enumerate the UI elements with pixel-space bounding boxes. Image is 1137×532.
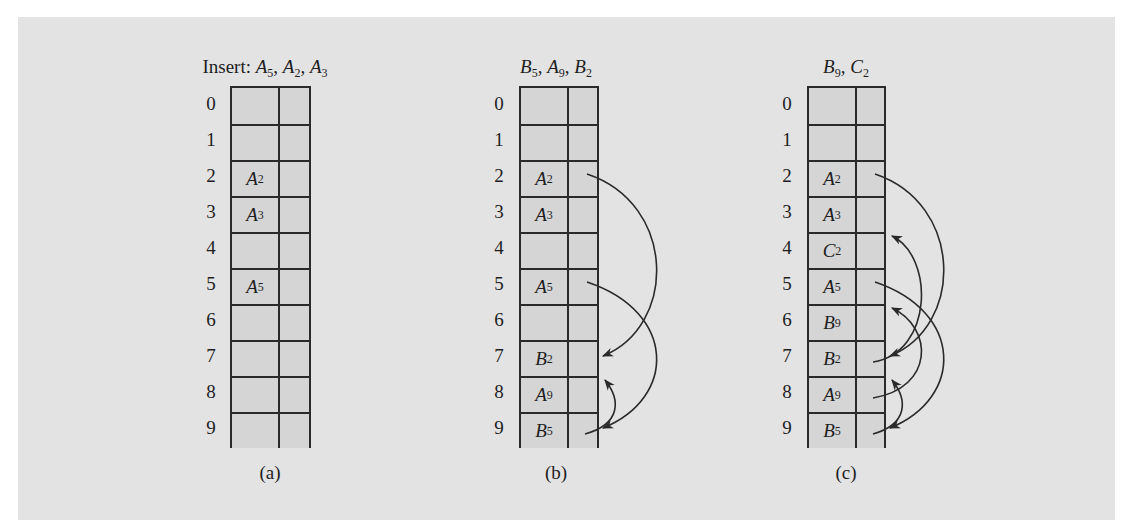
key-cell [521,306,569,340]
key-cell: A3 [809,198,857,232]
slot-index: 0 [777,93,797,115]
panel-title: B5, A9, B2 [520,56,592,78]
title-key: B2 [574,56,592,77]
slot-index: 9 [201,417,221,439]
link-cell [280,342,309,376]
link-cell [857,414,884,448]
key-cell [521,88,569,124]
link-cell [280,306,309,340]
key-cell: B5 [809,414,857,448]
key-cell [232,342,280,376]
key-cell [809,88,857,124]
table-row: A5 [521,268,597,304]
key-cell: B9 [809,306,857,340]
key-cell [232,88,280,124]
table-row [521,304,597,340]
key-cell [521,234,569,268]
slot-index: 5 [489,273,509,295]
link-cell [569,378,597,412]
table-row: A3 [232,196,309,232]
link-cell [857,88,884,124]
key-cell: A3 [521,198,569,232]
link-cell [280,88,309,124]
slot-index: 1 [201,129,221,151]
table-row: B5 [521,412,597,448]
title-key: B5 [520,56,538,77]
title-key: A2 [283,56,301,77]
slot-index: 8 [489,381,509,403]
key-cell [232,306,280,340]
slot-index: 9 [489,417,509,439]
key-cell: A9 [809,378,857,412]
table-row: B9 [809,304,884,340]
title-key: A3 [310,56,328,77]
key-cell: A2 [232,162,280,196]
link-cell [857,306,884,340]
key-cell: A3 [232,198,280,232]
table-row: B5 [809,412,884,448]
key-cell: A9 [521,378,569,412]
link-cell [569,342,597,376]
link-cell [857,378,884,412]
slot-index: 4 [777,237,797,259]
table-row: A2 [232,160,309,196]
link-cell [569,198,597,232]
table-row [232,124,309,160]
table-row [809,124,884,160]
title-key: B9 [823,56,841,77]
slot-index: 1 [777,129,797,151]
link-cell [857,234,884,268]
title-key: A9 [547,56,565,77]
title-prefix: Insert: [202,56,255,77]
link-cell [569,126,597,160]
table-row [232,340,309,376]
slot-index: 3 [201,201,221,223]
hash-table: A2A3C2A5B9B2A9B5 [807,86,886,448]
key-cell [521,126,569,160]
table-row: A2 [809,160,884,196]
slot-index: 9 [777,417,797,439]
slot-index: 6 [777,309,797,331]
hash-table: A2A3A5 [230,86,311,448]
slot-index: 6 [489,309,509,331]
link-cell [280,270,309,304]
table-row: A9 [521,376,597,412]
slot-index: 4 [489,237,509,259]
table-row [232,304,309,340]
slot-index: 3 [489,201,509,223]
slot-index: 0 [201,93,221,115]
link-cell [280,234,309,268]
table-row: A9 [809,376,884,412]
link-cell [857,198,884,232]
table-row [521,232,597,268]
key-cell [809,126,857,160]
link-cell [857,270,884,304]
table-row: C2 [809,232,884,268]
table-row: A5 [232,268,309,304]
link-cell [569,88,597,124]
key-cell [232,414,280,448]
panel-caption: (a) [259,462,280,484]
table-row [809,88,884,124]
slot-index: 1 [489,129,509,151]
table-row [521,124,597,160]
slot-index: 6 [201,309,221,331]
table-row [232,412,309,448]
slot-index: 7 [489,345,509,367]
title-key: C2 [850,56,869,77]
link-cell [280,414,309,448]
panel-title: B9, C2 [823,56,869,78]
table-row: A3 [809,196,884,232]
key-cell: A5 [809,270,857,304]
key-cell: A5 [521,270,569,304]
table-row [232,376,309,412]
panel-caption: (c) [835,462,856,484]
link-cell [569,306,597,340]
table-row: A2 [521,160,597,196]
link-cell [569,270,597,304]
table-row: B2 [809,340,884,376]
link-cell [569,162,597,196]
table-row: A3 [521,196,597,232]
slot-index: 8 [201,381,221,403]
slot-index: 2 [489,165,509,187]
